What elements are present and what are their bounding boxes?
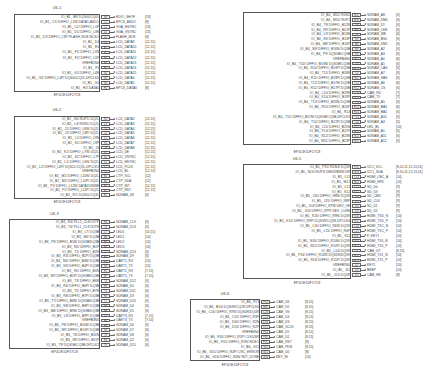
net-label: CAM_D2 — [276, 330, 289, 334]
sheet-reference: [6] — [145, 294, 149, 298]
pin-function-label: IO_B5_ J15/ DIFFIO_R8P — [312, 199, 350, 203]
pin-number: M11 — [352, 13, 361, 17]
sheet-reference: [6] — [396, 57, 400, 61]
sheet-reference: [6] — [396, 76, 400, 80]
pin-function-label: IO_B4_ T10/ DIFFIO_B16N/ DQS5B/CQ5B — [287, 62, 350, 66]
pin-function-label: IO_B6_ D16/ DIFFIO_R2N — [220, 320, 259, 324]
pin-number: N9 — [352, 47, 361, 51]
pin-row: IO_B4_ R10/ DIFFIO_B16P/ DQ5BR10SDRAM_CA… — [0, 66, 440, 70]
net-port-arrow-icon — [273, 336, 275, 338]
net-port-arrow-icon — [113, 151, 115, 153]
pin-number: P9 — [352, 52, 361, 56]
sheet-reference: [6] — [396, 86, 400, 90]
net-port-arrow-icon — [364, 259, 366, 261]
net-port-arrow-icon — [364, 38, 366, 40]
pin-function-label: IO_B2_ J6 — [83, 146, 99, 150]
pin-row: VREFB4N0N11SDRAM_A0[6] — [0, 57, 440, 61]
sheet-reference: [6] — [396, 47, 400, 51]
sheet-reference: [8,15] — [305, 325, 313, 329]
net-label: KEY_IN — [276, 355, 288, 359]
pin-function-label: IO_B3_ R6/ DIFFIO_B6P/ DQ3B — [51, 284, 99, 288]
sheet-reference: [14] — [396, 180, 402, 184]
net-port-arrow-icon — [364, 135, 366, 137]
pin-number: L16 — [352, 224, 361, 228]
sheet-reference: [6] — [396, 81, 400, 85]
pin-function-label: IO_B5_ L15/ DIFFIO_R6P — [312, 229, 350, 233]
pin-row: IO_B5_ J13/ DIFFIO_R7P/ DEV_CLRNJ13SD_D2… — [0, 209, 440, 213]
pin-row: IO_B4_ M11/ DIFFIO_B23PM11SDRAM_A12[6] — [0, 139, 440, 143]
sheet-reference: [9] — [396, 204, 400, 208]
sheet-reference: [8,15] — [305, 320, 313, 324]
pin-row: IO_B5_ K11K11F_KEY1[10] — [0, 234, 440, 238]
pin-function-label: IO_B6_ F16/ DIFFIO_R5P/ CLKUSR — [205, 335, 259, 339]
pin-row: IO_B5_ K16/ DIFFIO_R9N/ DQ5RK16HDMI_TXD_… — [0, 214, 440, 218]
net-port-arrow-icon — [273, 351, 275, 353]
sheet-reference: [8,15] — [305, 305, 313, 309]
net-label: SDRAM_A7 — [367, 71, 385, 75]
pin-number: L13 — [352, 175, 361, 179]
pin-number: F13 — [261, 300, 270, 304]
pin-row: IO_B6_ B16/ DQS0R/CQ1R,DPCLK6B16CAM_D5[8… — [0, 305, 440, 309]
block-title: U6-1 — [14, 5, 100, 10]
net-label: CAM_D0 — [276, 350, 289, 354]
net-port-arrow-icon — [364, 264, 366, 266]
pin-number: C16 — [261, 310, 270, 314]
pin-function-label: IO_B4_ K10/ DIFFIO_B19P — [310, 95, 351, 99]
net-port-arrow-icon — [364, 244, 366, 246]
pin-number: K10 — [352, 96, 361, 100]
net-label: CAM_T5 — [367, 95, 380, 99]
pin-function-label: IO_B4_ P9/ DQS5B/CQ5B — [311, 52, 350, 56]
pin-row: IO_B5_ N16/ DIFFIO_R10N/ DQ5RN16HDMI_TX0… — [0, 239, 440, 243]
sheet-reference: [10] — [396, 125, 402, 129]
net-label: CAM_HS — [367, 273, 381, 277]
pin-number: F14 — [261, 330, 270, 334]
block-title: U6-5 — [243, 156, 351, 161]
pin-row: IO_B5_ J15/ DQ5RJ15CAM_HS[8] — [0, 273, 440, 277]
net-port-arrow-icon — [273, 301, 275, 303]
net-label: LCD_DE — [116, 150, 129, 154]
pin-function-label: IO_B5_ M12 — [331, 180, 350, 184]
net-port-arrow-icon — [364, 72, 366, 74]
pin-function-label: IO_B4_ M9/ DIFFIO_B14P — [311, 42, 350, 46]
net-port-arrow-icon — [364, 43, 366, 45]
sheet-reference: [8] — [305, 340, 309, 344]
sheet-reference: [6] — [396, 18, 400, 22]
net-label: I2C1_SCL — [367, 165, 382, 169]
net-port-arrow-icon — [273, 311, 275, 313]
sheet-reference: [14] — [396, 244, 402, 248]
sheet-reference: [6] — [396, 110, 400, 114]
pin-function-label: IO_B6_ F15/ DIFFIO_R5N/ NCEO — [209, 340, 259, 344]
pin-function-label: IO_B4_ M10/ RUP2 — [321, 18, 350, 22]
pin-function-label: IO_B5_ N16/ RUP3/ DM5R/BWS#5R — [296, 170, 350, 174]
pin-function-label: IO_B4_ R10/ DIFFIO_B16P/ DQ5B — [299, 66, 351, 70]
pin-function-label: IO_B5_ K15/ DIFFIO_R9P/ DQS5R/CQ5R,DPCLK… — [274, 219, 350, 223]
pin-row: IO_B4_ T11/ DIFFIO_B18NT11SDRAM_A7[6] — [0, 71, 440, 75]
pin-row: IO_B4_ L11/ DIFFIO_B21NL11LED_BL[10] — [0, 125, 440, 129]
net-port-arrow-icon — [364, 180, 366, 182]
net-label: SDRAM_DM0 — [367, 18, 388, 22]
net-label: HDMI_TX0_P — [367, 244, 387, 248]
net-label: HDMI_TX1_P — [367, 258, 387, 262]
net-port-arrow-icon — [364, 239, 366, 241]
sheet-reference: [8] — [396, 273, 400, 277]
sheet-reference: [10] — [396, 234, 402, 238]
pin-row: IO_B6_ C15/ DIFFIO_R3PC15CAM_D4[8,15] — [0, 315, 440, 319]
pin-row: IO_B5_ K12K12SD_D3[9] — [0, 190, 440, 194]
net-port-arrow-icon — [364, 225, 366, 227]
pin-row: IO_B4_ N12/ DIFFIO_B23NN12SDRAM_A11[6] — [0, 134, 440, 138]
pin-row: IO_B4_ P14/ DIFFIO_B21PP14SDRAM_A1[6] — [0, 129, 440, 133]
net-label: HDMI_TXD_N — [367, 214, 388, 218]
pin-number: G15 — [261, 350, 270, 354]
pin-function-label: IO_B6_ G11 — [241, 345, 259, 349]
net-port-arrow-icon — [364, 115, 366, 117]
net-label: HDMI_TXC_N — [367, 224, 388, 228]
net-label: SDRAM_D1 — [367, 23, 385, 27]
pin-number: K2 — [101, 155, 110, 159]
pin-function-label: IO_B5_ J13/ DIFFIO_R7P/ DEV_CLRN — [292, 209, 350, 213]
pin-number: R6 — [101, 284, 110, 288]
sheet-reference: [8,15] — [305, 315, 313, 319]
pin-number: L15 — [352, 229, 361, 233]
part-number: EP4CE10F17C8 — [243, 150, 371, 154]
pin-number: J6 — [101, 146, 110, 150]
net-label: SDRAM_A12 — [367, 139, 387, 143]
